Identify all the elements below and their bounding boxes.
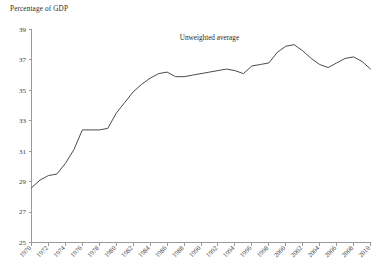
x-tick-label: 1990 [187,244,202,259]
x-tick-label: 1974 [52,244,67,259]
data-series-line [32,45,371,188]
y-tick-label: 35 [19,87,27,95]
x-tick-label: 2008 [340,244,355,259]
x-tick-label: 1982 [120,244,134,258]
x-tick-label: 1998 [255,244,270,259]
x-tick-label: 1978 [86,244,101,259]
y-axis-ticks: 2527293133353739 [19,26,32,247]
x-tick-label: 1992 [204,244,218,258]
x-tick-label: 1980 [103,244,118,259]
x-tick-label: 1988 [170,244,185,259]
y-tick-label: 29 [19,178,27,186]
y-tick-label: 39 [19,26,27,34]
x-tick-label: 2004 [306,244,321,259]
x-tick-label: 1994 [221,244,236,259]
y-tick-label: 33 [19,117,27,125]
x-tick-label: 1996 [238,244,253,259]
x-tick-label: 2010 [357,244,372,259]
y-tick-label: 31 [19,148,27,156]
x-axis-ticks: 1970197219741976197819801982198419861988… [18,243,372,259]
x-tick-label: 1976 [69,244,84,259]
x-tick-label: 1986 [154,244,169,259]
x-tick-label: 2002 [289,244,303,258]
series-annotation: Unweighted average [180,34,239,42]
x-tick-label: 1984 [137,244,152,259]
x-tick-label: 2000 [272,244,287,259]
y-tick-label: 37 [19,56,27,64]
x-tick-label: 1972 [35,244,49,258]
x-tick-label: 2006 [323,244,338,259]
line-chart-plot: 2527293133353739 19701972197419761978198… [0,0,382,274]
chart-annotations: Unweighted average [180,34,239,42]
y-tick-label: 27 [19,208,27,216]
chart-figure: Percentage of GDP 2527293133353739 19701… [0,0,382,274]
